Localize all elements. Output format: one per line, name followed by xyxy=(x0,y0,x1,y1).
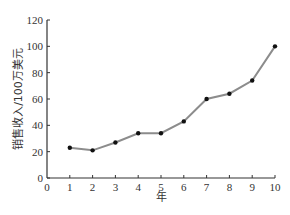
x-tick-label: 8 xyxy=(227,181,233,193)
x-tick-label: 6 xyxy=(181,181,187,193)
x-tick-label: 9 xyxy=(249,181,255,193)
data-point xyxy=(159,131,163,135)
x-tick-label: 7 xyxy=(204,181,210,193)
data-point xyxy=(250,78,254,82)
plot-area xyxy=(68,44,278,152)
y-tick-label: 80 xyxy=(32,67,44,79)
y-tick-label: 120 xyxy=(27,14,44,26)
data-line xyxy=(70,46,275,150)
axes: 020406080100120012345678910 xyxy=(27,14,282,193)
line-chart: 020406080100120012345678910 年 销售收入/100万美… xyxy=(0,0,290,215)
y-tick-label: 40 xyxy=(32,119,44,131)
x-tick-label: 0 xyxy=(44,181,50,193)
y-tick-label: 0 xyxy=(38,172,44,184)
y-axis-label: 销售收入/100万美元 xyxy=(11,48,25,150)
x-tick-label: 10 xyxy=(270,181,282,193)
data-point xyxy=(90,148,94,152)
data-point xyxy=(227,92,231,96)
data-point xyxy=(136,131,140,135)
data-point xyxy=(204,97,208,101)
data-point xyxy=(273,44,277,48)
x-tick-label: 2 xyxy=(90,181,96,193)
data-point xyxy=(182,119,186,123)
data-point xyxy=(113,140,117,144)
x-axis-label: 年 xyxy=(156,190,167,204)
x-tick-label: 3 xyxy=(113,181,119,193)
data-point xyxy=(68,146,72,150)
y-tick-label: 20 xyxy=(32,146,44,158)
x-tick-label: 4 xyxy=(135,181,141,193)
y-tick-label: 100 xyxy=(27,40,44,52)
x-tick-label: 1 xyxy=(67,181,73,193)
y-tick-label: 60 xyxy=(32,93,44,105)
